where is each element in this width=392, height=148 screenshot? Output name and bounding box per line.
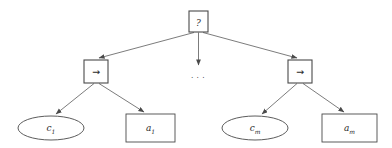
edge-root-to-right-rule [203, 33, 297, 59]
node-right-rule[interactable]: → [288, 60, 312, 83]
tree-diagram: ? → · · · → c1 a1 [0, 0, 392, 148]
node-left-action[interactable]: a1 [126, 114, 175, 142]
right-condition-subscript: m [255, 128, 261, 135]
node-right-action[interactable]: am [322, 114, 377, 142]
right-rule-arrow-icon: → [296, 66, 304, 77]
edge-right-rule-to-action [303, 84, 344, 113]
left-action-subscript: 1 [151, 128, 155, 135]
node-left-rule[interactable]: → [84, 60, 108, 83]
right-action-subscript: m [349, 128, 355, 135]
node-left-condition[interactable]: c1 [18, 116, 84, 140]
edge-root-to-left-rule [99, 33, 194, 59]
edge-left-rule-to-condition [56, 84, 94, 115]
edge-right-rule-to-condition [262, 84, 297, 115]
edge-left-rule-to-action [99, 84, 144, 113]
node-root[interactable]: ? [189, 11, 208, 32]
middle-ellipsis-label: · · · [191, 73, 205, 82]
left-condition-subscript: 1 [52, 128, 56, 135]
node-right-condition[interactable]: cm [222, 116, 288, 140]
root-label: ? [196, 18, 201, 28]
diagram-canvas: ? → · · · → c1 a1 [0, 0, 392, 148]
left-rule-arrow-icon: → [92, 66, 100, 77]
